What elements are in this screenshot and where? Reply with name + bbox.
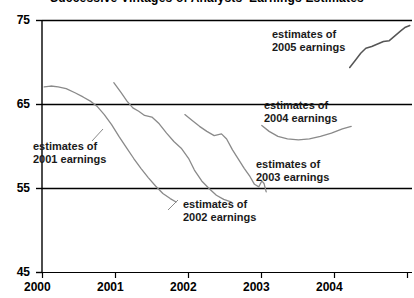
annotation-2002-earnings: estimates of 2002 earnings — [183, 198, 256, 224]
y-axis-tick-label-75: 75 — [2, 13, 30, 27]
chart-screenshot: Successive Vintages of Analysts' Earning… — [0, 0, 414, 298]
annotation-2002-line1: estimates of — [183, 198, 256, 211]
annotation-2003-line1: estimates of — [256, 158, 329, 171]
y-axis-tick-label-55: 55 — [2, 181, 30, 195]
x-axis-tick-label-2003: 2003 — [243, 280, 270, 294]
x-axis-tick-label-2004: 2004 — [316, 280, 343, 294]
x-axis-tick-label-2000: 2000 — [24, 280, 51, 294]
annotation-2003-earnings: estimates of 2003 earnings — [256, 158, 329, 184]
y-axis-tick-label-65: 65 — [2, 97, 30, 111]
y-axis-tick-label-45: 45 — [2, 265, 30, 279]
series-line-2002-earnings — [114, 83, 231, 202]
annotation-2005-line1: estimates of — [272, 28, 345, 41]
leader-line-2002 — [168, 200, 178, 210]
x-axis-tick-label-2002: 2002 — [170, 280, 197, 294]
annotation-2002-line2: 2002 earnings — [183, 211, 256, 224]
series-line-2003-earnings — [185, 115, 266, 192]
annotation-2005-earnings: estimates of 2005 earnings — [272, 28, 345, 54]
annotation-2005-line2: 2005 earnings — [272, 41, 345, 54]
x-axis-tick-label-2001: 2001 — [97, 280, 124, 294]
series-line-2004-earnings — [262, 126, 351, 140]
series-group — [44, 26, 410, 202]
annotation-2001-line2: 2001 earnings — [33, 153, 106, 166]
annotation-2003-line2: 2003 earnings — [256, 171, 329, 184]
annotation-2004-line1: estimates of — [264, 99, 337, 112]
annotation-2004-line2: 2004 earnings — [264, 112, 337, 125]
annotation-2004-earnings: estimates of 2004 earnings — [264, 99, 337, 125]
series-line-2005-earnings — [350, 26, 410, 68]
annotation-2001-line1: estimates of — [33, 140, 106, 153]
annotation-2001-earnings: estimates of 2001 earnings — [33, 140, 106, 166]
